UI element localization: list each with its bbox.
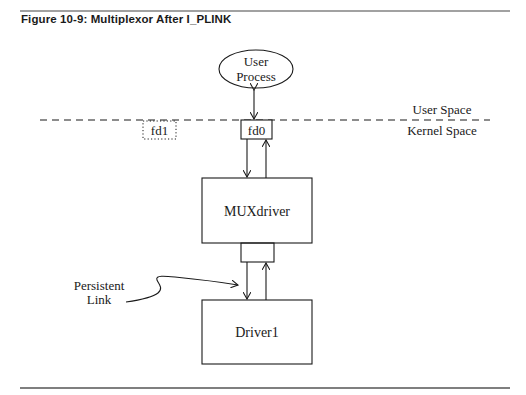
driver1-node: Driver1 bbox=[202, 300, 312, 364]
persistent-link-label-1: Persistent bbox=[74, 278, 125, 293]
link-box-node bbox=[241, 243, 274, 262]
user-process-label-1: User bbox=[244, 54, 269, 69]
muxdriver-node: MUXdriver bbox=[202, 178, 312, 243]
fd1-node: fd1 bbox=[143, 121, 176, 139]
fd0-node: fd0 bbox=[241, 120, 272, 139]
persistent-link-pointer bbox=[126, 276, 238, 302]
fd0-label: fd0 bbox=[248, 123, 265, 138]
user-space-label: User Space bbox=[413, 102, 472, 117]
multiplexor-diagram: User Process User Space Kernel Space fd1… bbox=[0, 0, 526, 395]
muxdriver-label: MUXdriver bbox=[224, 204, 290, 219]
persistent-link-label-2: Link bbox=[87, 292, 112, 307]
kernel-space-label: Kernel Space bbox=[407, 123, 477, 138]
user-process-node: User Process bbox=[219, 50, 293, 88]
user-process-label-2: Process bbox=[236, 69, 276, 84]
fd1-label: fd1 bbox=[151, 123, 168, 138]
driver1-label: Driver1 bbox=[235, 325, 279, 340]
